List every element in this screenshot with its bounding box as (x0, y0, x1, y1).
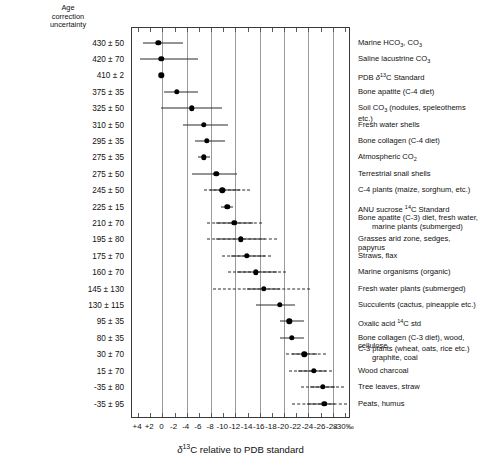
axis-tick-bot-neg16 (260, 413, 261, 417)
material-label: Oxalic acid 14C std (358, 317, 478, 329)
error-bar (210, 190, 240, 191)
age-correction-label: 325 ± 50 (0, 104, 124, 113)
age-correction-label: 95 ± 35 (0, 317, 124, 326)
axis-tick-top-neg18 (272, 28, 273, 32)
age-correction-label: 375 ± 35 (0, 87, 124, 96)
age-correction-label: 310 ± 50 (0, 120, 124, 129)
age-correction-label: 225 ± 15 (0, 202, 124, 211)
error-bar (140, 58, 198, 59)
axis-tick-bot-neg24 (308, 413, 309, 417)
age-correction-label: 195 ± 80 (0, 235, 124, 244)
axis-tick-bot-neg14 (248, 413, 249, 417)
error-bar (143, 42, 183, 43)
axis-tick-top-2 (150, 28, 151, 32)
error-bar (256, 305, 296, 306)
axis-tick-bot-2 (150, 413, 151, 417)
x-axis-title: δ13C relative to PDB standard (131, 443, 350, 455)
age-correction-label: 410 ± 2 (0, 71, 124, 80)
axis-tick-bot-neg28 (333, 413, 334, 417)
age-correction-label: 295 ± 35 (0, 136, 124, 145)
axis-tick-top-neg6 (199, 28, 200, 32)
gridline-0 (162, 28, 163, 417)
axis-tick-bot-0 (162, 413, 163, 417)
axis-tick-top-neg4 (187, 28, 188, 32)
axis-tick-top-neg26 (321, 28, 322, 32)
age-correction-label: 210 ± 70 (0, 219, 124, 228)
axis-tick-top-4 (138, 28, 139, 32)
material-label: Peats, humus (358, 399, 478, 408)
age-correction-label: 430 ± 50 (0, 38, 124, 47)
material-label: Bone apatite (C-4 diet) (358, 87, 478, 96)
age-correction-label: 15 ± 70 (0, 366, 124, 375)
axis-tick-bot-neg10 (223, 413, 224, 417)
material-label: Fresh water shells (358, 120, 478, 129)
age-correction-label: 130 ± 115 (0, 301, 124, 310)
axis-tick-bot-4 (138, 413, 139, 417)
x-tick-label-neg30: -30‰ (329, 422, 359, 431)
material-label: Bone collagen (C-4 diet) (358, 136, 478, 145)
age-correction-label: 145 ± 130 (0, 284, 124, 293)
gridline-neg4 (187, 28, 188, 417)
material-label: Atmospheric CO2 (358, 153, 478, 164)
axis-tick-top-neg28 (333, 28, 334, 32)
material-label: Wood charcoal (358, 366, 478, 375)
material-label: Fresh water plants (submerged) (358, 284, 478, 293)
axis-tick-top-neg14 (248, 28, 249, 32)
material-label: Succulents (cactus, pineapple etc.) (358, 301, 478, 310)
axis-tick-top-0 (162, 28, 163, 32)
material-label: Marine organisms (organic) (358, 268, 478, 277)
material-label: Terrestrial snail shells (358, 169, 478, 178)
material-label: C-3 plants (wheat, oats, rice etc.)graph… (358, 345, 478, 362)
error-bar (280, 321, 304, 322)
axis-tick-bot-neg4 (187, 413, 188, 417)
material-label: C-4 plants (maize, sorghum, etc.) (358, 186, 478, 195)
axis-tick-top-neg24 (308, 28, 309, 32)
gridline-neg20 (284, 28, 285, 417)
gridline-neg28 (333, 28, 334, 417)
error-bar (195, 140, 225, 141)
error-bar (164, 91, 197, 92)
age-correction-label: 175 ± 70 (0, 251, 124, 260)
age-correction-label: 30 ± 70 (0, 350, 124, 359)
material-label: Tree leaves, straw (358, 383, 478, 392)
axis-tick-top-neg16 (260, 28, 261, 32)
axis-tick-top-neg8 (211, 28, 212, 32)
age-correction-label: 420 ± 70 (0, 54, 124, 63)
age-correction-label: 245 ± 50 (0, 186, 124, 195)
age-correction-label: -35 ± 95 (0, 399, 124, 408)
age-correction-label: -35 ± 80 (0, 383, 124, 392)
axis-tick-bot-neg6 (199, 413, 200, 417)
age-correction-label: 275 ± 35 (0, 153, 124, 162)
material-label: Straws, flax (358, 251, 478, 260)
axis-tick-bot-neg18 (272, 413, 273, 417)
gridline-neg24 (308, 28, 309, 417)
age-correction-uncertainty-header: Age correction uncertainty (6, 4, 130, 30)
material-label: Marine HCO3, CO3 (358, 38, 478, 49)
delta13c-reference-chart: Age correction uncertainty +4+20-2-4-6-8… (0, 0, 478, 464)
axis-tick-bot-neg30 (345, 413, 346, 417)
header-line-3: uncertainty (6, 21, 130, 30)
axis-title-rest: C relative to PDB standard (190, 444, 304, 455)
axis-tick-bot-neg8 (211, 413, 212, 417)
axis-tick-bot-neg2 (175, 413, 176, 417)
age-correction-label: 80 ± 35 (0, 333, 124, 342)
axis-tick-top-neg30 (345, 28, 346, 32)
axis-tick-top-neg10 (223, 28, 224, 32)
axis-tick-top-neg2 (175, 28, 176, 32)
axis-tick-top-neg12 (235, 28, 236, 32)
age-correction-label: 275 ± 50 (0, 169, 124, 178)
axis-tick-bot-neg22 (296, 413, 297, 417)
axis-tick-top-neg22 (296, 28, 297, 32)
material-label: PDB δ13C Standard (358, 71, 478, 83)
axis-tick-bot-neg26 (321, 413, 322, 417)
age-correction-label: 160 ± 70 (0, 268, 124, 277)
axis-tick-bot-neg12 (235, 413, 236, 417)
axis-tick-top-neg20 (284, 28, 285, 32)
material-label: Saline lacustrine CO3 (358, 54, 478, 65)
axis-tick-bot-neg20 (284, 413, 285, 417)
material-label: Bone apatite (C-3) diet, fresh water,mar… (358, 214, 478, 231)
